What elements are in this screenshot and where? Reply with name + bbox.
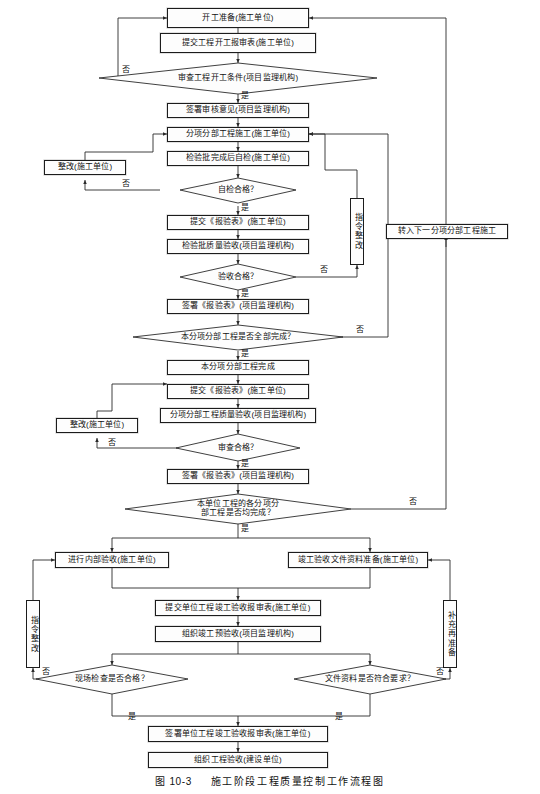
- node-internal-acceptance[interactable]: 进行内部验收(施工单位): [55, 552, 169, 568]
- edge-label-no-4: 否: [356, 326, 364, 334]
- figure-number: 图 10-3: [155, 776, 191, 787]
- node-label: 签署单位工程竣工验收报审表(施工单位): [163, 730, 312, 738]
- node-label: 补充再准备: [446, 611, 454, 657]
- edge-label-no-8: 否: [436, 668, 444, 676]
- figure-caption: 图 10-3 施工阶段工程质量控制工作流程图: [0, 773, 540, 788]
- node-sign-review-opinion[interactable]: 签署审核意见(项目监理机构): [167, 103, 309, 118]
- decision-subitem-all-completed[interactable]: 本分项分部工程是否全部完成？: [148, 330, 328, 344]
- decision-label: 现场检查是否合格？: [75, 675, 149, 684]
- node-subitem-quality-acceptance[interactable]: 分项分部工程质量验收(项目监理机构): [160, 408, 316, 423]
- node-self-inspection-after-lot[interactable]: 检验批完成后自检(施工单位): [167, 151, 309, 166]
- figure-title: 施工阶段工程质量控制工作流程图: [211, 776, 385, 787]
- node-completion-documents-preparation[interactable]: 竣工验收文件资料准备(施工单位): [288, 552, 428, 568]
- node-label: 进行内部验收(施工单位): [66, 556, 158, 564]
- edge-label-yes-8: 是: [335, 713, 343, 721]
- decision-self-inspection-pass[interactable]: 自检合格？: [198, 183, 278, 197]
- edge-label-yes-6: 是: [241, 525, 249, 533]
- node-label: 签署《报验表》(项目监理机构): [180, 472, 296, 480]
- node-label: 签署《报验表》(项目监理机构): [180, 302, 296, 310]
- decision-unit-project-all-completed[interactable]: 本单位工程的各分项分 部工程是否均完成？: [160, 497, 316, 521]
- node-label: 本分项分部工程完成: [199, 363, 277, 371]
- node-subitem-construction[interactable]: 分项分部工程施工(施工单位): [167, 127, 309, 142]
- edge-label-yes-3: 是: [241, 290, 249, 298]
- node-order-rectification-1[interactable]: 指令整改: [350, 198, 364, 265]
- decision-label: 审查工程开工条件(项目监理机构): [178, 74, 299, 83]
- decision-label: 自检合格？: [218, 186, 259, 195]
- node-label: 转入下一分项分部工程施工: [396, 227, 498, 235]
- flowchart-figure: 开工准备(施工单位) 提交工程开工报审表(施工单位) 签署审核意见(项目监理机构…: [0, 0, 540, 794]
- node-submit-completion-acceptance-form[interactable]: 提交单位工程竣工验收报审表(施工单位): [155, 600, 321, 616]
- edge-label-yes-5: 是: [241, 460, 249, 468]
- node-label: 整改(施工单位): [68, 421, 127, 429]
- decision-acceptance-pass[interactable]: 验收合格？: [198, 270, 278, 284]
- node-label: 指令整改: [353, 213, 361, 250]
- decision-site-inspection-pass[interactable]: 现场检查是否合格？: [48, 672, 176, 686]
- node-label: 竣工验收文件资料准备(施工单位): [296, 556, 421, 564]
- node-label: 整改(施工单位): [56, 163, 115, 171]
- node-order-rectification-2[interactable]: 指令整改: [26, 600, 40, 668]
- node-label: 提交工程开工报审表(施工单位): [180, 39, 296, 47]
- node-organize-project-acceptance[interactable]: 组织工程验收(建设单位): [148, 752, 328, 768]
- decision-label: 审查合格？: [218, 444, 259, 453]
- node-label: 组织工程验收(建设单位): [192, 756, 284, 764]
- node-label: 提交单位工程竣工验收报审表(施工单位): [163, 604, 312, 612]
- decision-label: 验收合格？: [218, 273, 259, 282]
- node-sign-completion-acceptance-form[interactable]: 签署单位工程竣工验收报审表(施工单位): [148, 726, 328, 742]
- node-rectification-contractor-1[interactable]: 整改(施工单位): [44, 160, 126, 175]
- node-organize-pre-acceptance[interactable]: 组织竣工预验收(项目监理机构): [155, 626, 321, 642]
- node-lot-quality-acceptance[interactable]: 检验批质量验收(项目监理机构): [167, 239, 309, 254]
- node-label: 检验批质量验收(项目监理机构): [180, 242, 296, 250]
- node-submit-inspection-form-2[interactable]: 提交《报验表》(施工单位): [167, 384, 309, 399]
- node-supplement-and-reprepare[interactable]: 补充再准备: [443, 600, 457, 668]
- node-proceed-next-subitem[interactable]: 转入下一分项分部工程施工: [386, 224, 508, 239]
- edge-label-yes-7: 是: [128, 713, 136, 721]
- edge-label-no-7: 否: [42, 668, 50, 676]
- node-rectification-contractor-2[interactable]: 整改(施工单位): [56, 418, 138, 433]
- edge-label-yes-4: 是: [241, 350, 249, 358]
- decision-documents-meet-requirements[interactable]: 文件资料是否符合要求？: [300, 672, 440, 686]
- node-label: 分项分部工程施工(施工单位): [184, 130, 292, 138]
- edge-label-yes-2: 是: [241, 204, 249, 212]
- decision-label-line2: 部工程是否均完成？: [201, 509, 275, 518]
- node-label: 指令整改: [29, 616, 37, 653]
- edge-label-no-5: 否: [108, 439, 116, 447]
- decision-review-commencement-conditions[interactable]: 审查工程开工条件(项目监理机构): [148, 70, 328, 86]
- edge-label-no-6: 否: [409, 498, 417, 506]
- edge-label-yes-1: 是: [241, 92, 249, 100]
- node-construction-preparation[interactable]: 开工准备(施工单位): [167, 8, 309, 28]
- node-sign-inspection-form-2[interactable]: 签署《报验表》(项目监理机构): [167, 469, 309, 484]
- decision-label: 文件资料是否符合要求？: [325, 675, 415, 684]
- node-label: 提交《报验表》(施工单位): [188, 218, 288, 226]
- node-submit-commencement-form[interactable]: 提交工程开工报审表(施工单位): [160, 33, 316, 53]
- node-submit-inspection-form-1[interactable]: 提交《报验表》(施工单位): [167, 215, 309, 230]
- edge-label-no-2: 否: [122, 180, 130, 188]
- decision-label: 本分项分部工程是否全部完成？: [181, 333, 296, 342]
- node-label: 组织竣工预验收(项目监理机构): [180, 630, 296, 638]
- node-label: 开工准备(施工单位): [200, 14, 275, 22]
- edge-label-no-3: 否: [320, 266, 328, 274]
- edge-label-no-1: 否: [122, 66, 130, 74]
- node-label: 提交《报验表》(施工单位): [188, 387, 288, 395]
- decision-review-pass[interactable]: 审查合格？: [198, 441, 278, 455]
- node-sign-inspection-form-1[interactable]: 签署《报验表》(项目监理机构): [167, 299, 309, 314]
- node-subitem-completed[interactable]: 本分项分部工程完成: [167, 360, 309, 375]
- node-label: 分项分部工程质量验收(项目监理机构): [168, 411, 309, 419]
- node-label: 检验批完成后自检(施工单位): [184, 154, 292, 162]
- node-label: 签署审核意见(项目监理机构): [184, 106, 292, 114]
